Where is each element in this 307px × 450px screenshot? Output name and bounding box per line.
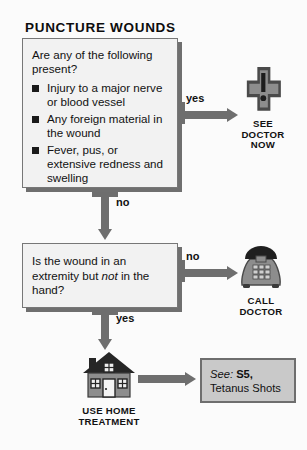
outcome-see-doctor-now: SEE DOCTOR NOW (226, 62, 300, 151)
arrow-yes-to-home-treatment (98, 310, 112, 350)
flowchart-page: PUNCTURE WOUNDS Are any of the following… (0, 0, 307, 450)
outcome-caption: CALL DOCTOR (224, 296, 298, 317)
telephone-icon (224, 243, 298, 293)
arrow-shaft (101, 192, 109, 229)
arrow-home-treatment-to-see-also (138, 372, 196, 385)
medical-cross-exclamation-icon (226, 62, 300, 116)
question-box-2: Is the wound in an extremity but not in … (22, 243, 178, 308)
house-icon (72, 349, 146, 403)
outcome-caption: USE HOME TREATMENT (72, 406, 146, 427)
square-bullet-icon (32, 85, 39, 92)
arrow-shaft (138, 375, 185, 383)
square-bullet-icon (32, 147, 39, 154)
arrow-label-yes-1: yes (186, 92, 204, 104)
arrow-shaft (180, 269, 227, 277)
arrow-label-yes-2: yes (116, 312, 134, 324)
arrow-no-to-question-2 (98, 192, 112, 240)
arrow-head (98, 229, 112, 240)
see-also-line-1: See: S5, (210, 367, 286, 381)
caption-line: USE HOME (72, 406, 146, 417)
caption-line: CALL (224, 296, 298, 307)
see-also-box[interactable]: See: S5, Tetanus Shots (200, 358, 296, 403)
caption-line: TREATMENT (72, 417, 146, 428)
bullet-text: Any foreign material in the wound (47, 112, 162, 139)
see-also-see-word: See: (210, 368, 233, 380)
question-1-bullet-list: Injury to a major nerve or blood vessel … (32, 81, 169, 185)
square-bullet-icon (32, 116, 39, 123)
caption-line: DOCTOR (224, 307, 298, 318)
question-2-text: Is the wound in an extremity but not in … (32, 254, 169, 298)
arrow-label-no-1: no (116, 196, 129, 208)
caption-line: SEE (226, 119, 300, 130)
question-2-emphasis: not (102, 269, 118, 282)
arrow-shaft (180, 111, 227, 119)
arrow-label-no-2: no (186, 250, 199, 262)
bullet-text: Injury to a major nerve or blood vessel (47, 81, 162, 108)
outcome-use-home-treatment: USE HOME TREATMENT (72, 349, 146, 427)
list-item: Fever, pus, or extensive redness and swe… (32, 143, 169, 185)
page-title: PUNCTURE WOUNDS (25, 20, 176, 35)
see-also-topic: Tetanus Shots (210, 381, 286, 395)
outcome-call-doctor: CALL DOCTOR (224, 243, 298, 317)
bullet-text: Fever, pus, or extensive redness and swe… (47, 143, 163, 184)
caption-line: NOW (226, 140, 300, 151)
see-also-reference: S5, (236, 368, 253, 380)
list-item: Any foreign material in the wound (32, 112, 169, 140)
question-box-1: Are any of the following present? Injury… (22, 38, 178, 188)
arrow-shaft (101, 310, 109, 339)
question-1-lead: Are any of the following present? (32, 48, 169, 76)
list-item: Injury to a major nerve or blood vessel (32, 81, 169, 109)
outcome-caption: SEE DOCTOR NOW (226, 119, 300, 151)
arrow-head (185, 372, 196, 386)
